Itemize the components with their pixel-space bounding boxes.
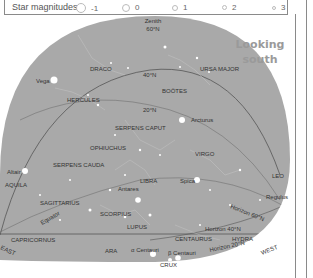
constellation-serpens-cauda: SERPENS CAUDA [53,162,104,168]
direction-title: Looking [236,38,285,51]
constellation-lupus: LUPUS [127,224,147,230]
latitude-40n: 40°N [143,72,156,78]
star-label-alpha-centauri: α Centauri [131,247,159,253]
compass-west: WEST [260,244,279,256]
star-label-beta-centauri: β Centauri [168,250,196,256]
star-label-vega: Vega [36,78,50,84]
star-label-spica: Spica [180,178,196,184]
constellation-scorpius: SCORPIUS [100,211,131,217]
constellation-ara: ARA [105,248,117,254]
constellation-crux: CRUX [160,262,177,268]
star-antares [135,197,141,203]
star-label-antares: Antares [118,186,139,192]
latitude-20n: 20°N [143,107,156,113]
star-label-altair: Altair [7,169,21,175]
star-altair [22,168,28,174]
constellation-hercules: HERCULES [67,97,100,103]
constellation-virgo: VIRGO [195,151,215,157]
constellation-bootes: BOÖTES [162,88,187,94]
zenith-latitude: 60°N [146,26,159,32]
constellation-libra: LIBRA [140,178,157,184]
zenith-label: Zenith [145,18,162,24]
constellation-ophiuchus: OPHIUCHUS [90,145,126,151]
constellation-capricornus: CAPRICORNUS [11,237,55,243]
constellation-ursa-major: URSA MAJOR [200,66,240,72]
constellation-aquila: AQUILA [5,182,27,188]
star-chart: Zenith 60°N Looking south DRACO URSA MAJ… [0,0,313,278]
star-arcturus [179,117,185,123]
star-vega [51,77,58,84]
direction-title: south [242,53,277,66]
constellation-centaurus: CENTAURUS [175,236,212,242]
constellation-sagittarius: SAGITTARIUS [40,200,80,206]
constellation-leo: LEO [272,173,284,179]
horizon-40n: Horizon 40°N [205,226,241,232]
star-label-arcturus: Arcturus [191,117,213,123]
star-label-regulus: Regulus [266,194,288,200]
constellation-serpens-caput: SERPENS CAPUT [115,125,166,131]
constellation-draco: DRACO [90,66,112,72]
